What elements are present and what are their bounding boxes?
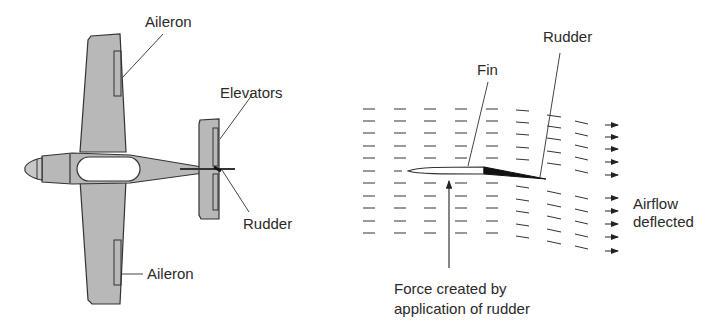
label-force: Force created by application of rudder: [394, 279, 530, 319]
canopy: [77, 157, 140, 181]
airflow-diagram: [363, 53, 618, 268]
label-force-line1: Force created by: [394, 279, 530, 299]
rudder-section: [484, 167, 546, 179]
label-rudder-left: Rudder: [243, 215, 292, 233]
diagram-canvas: [0, 0, 716, 329]
label-airflow-deflected: Airflow deflected: [633, 195, 694, 231]
label-aileron-bottom: Aileron: [147, 265, 194, 283]
streamlines-lower: [363, 183, 588, 249]
fin-section: [408, 167, 484, 174]
aircraft-top-view: [25, 34, 252, 304]
label-airflow-line1: Airflow: [633, 195, 694, 213]
propeller-spinner: [25, 158, 42, 180]
label-force-line2: application of rudder: [394, 299, 530, 319]
streamlines-upper: [363, 109, 588, 173]
wing-top: [80, 34, 126, 152]
label-fin: Fin: [477, 61, 498, 79]
airflow-arrows: [605, 125, 618, 251]
label-aileron-top: Aileron: [145, 13, 192, 31]
label-elevators: Elevators: [220, 84, 283, 102]
label-airflow-line2: deflected: [633, 213, 694, 231]
label-rudder-right: Rudder: [543, 28, 592, 46]
